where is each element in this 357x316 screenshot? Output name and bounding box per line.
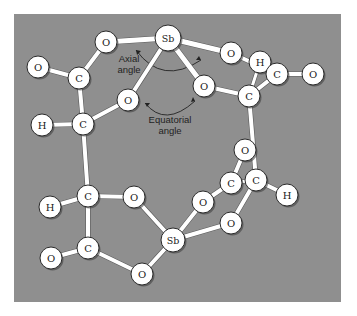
molecule-diagram: SbOOCOCHOHCOOCOCCHOOSbCHOCOO Axial angle… [0, 0, 357, 316]
atom-label: O [124, 95, 132, 106]
atom-label: C [75, 73, 83, 84]
atom-label: H [46, 202, 55, 213]
atom-label: O [47, 253, 55, 264]
atom-label: O [227, 218, 235, 229]
atom-label: O [199, 197, 207, 208]
atom-label: O [102, 37, 110, 48]
axial-angle-label-line2: angle [117, 64, 140, 75]
atom-label: C [252, 175, 260, 186]
atom-label: Sb [162, 33, 175, 44]
atom-label: H [283, 190, 292, 201]
atom-label: O [200, 81, 208, 92]
atom-label: C [227, 178, 235, 189]
atom-label: H [256, 57, 265, 68]
atom-label: O [309, 69, 317, 80]
axial-angle-label-line1: Axial [119, 53, 140, 64]
atom-label: O [34, 62, 42, 73]
atom-label: C [273, 69, 281, 80]
atom-label: Sb [167, 235, 180, 246]
atom-label: H [38, 120, 47, 131]
equatorial-angle-label-line2: angle [158, 125, 181, 136]
atom-label: O [138, 269, 146, 280]
equatorial-angle-label-line1: Equatorial [149, 114, 192, 125]
atom-label: C [84, 191, 92, 202]
atom-label: O [130, 192, 138, 203]
atom-label: C [79, 119, 87, 130]
atom-label: C [245, 91, 253, 102]
atom-label: O [241, 145, 249, 156]
atom-label: O [227, 48, 235, 59]
atom-label: C [84, 243, 92, 254]
